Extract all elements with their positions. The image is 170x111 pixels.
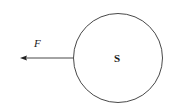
body-label: S bbox=[114, 52, 120, 64]
force-diagram: F S bbox=[0, 0, 170, 111]
force-arrowhead-icon bbox=[20, 56, 27, 61]
force-label: F bbox=[33, 37, 41, 49]
